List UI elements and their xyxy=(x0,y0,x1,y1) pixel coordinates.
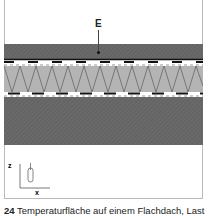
label-point-marker xyxy=(97,51,100,54)
caption-number: 24 xyxy=(4,205,15,216)
figure-caption: 24 Temperaturfläche auf einem Flachdach,… xyxy=(4,205,205,216)
axis-label-z: z xyxy=(8,162,12,169)
axis-label-x: x xyxy=(35,189,39,196)
upper-dark-layer xyxy=(4,44,203,59)
label-e: E xyxy=(95,18,102,29)
axis-indicator: z x xyxy=(14,160,54,200)
label-leader-line xyxy=(98,30,99,52)
roof-section-diagram xyxy=(4,0,203,150)
caption-text: Temperaturfläche auf einem Flachdach, La… xyxy=(17,205,204,216)
lower-dark-layer xyxy=(4,97,203,145)
